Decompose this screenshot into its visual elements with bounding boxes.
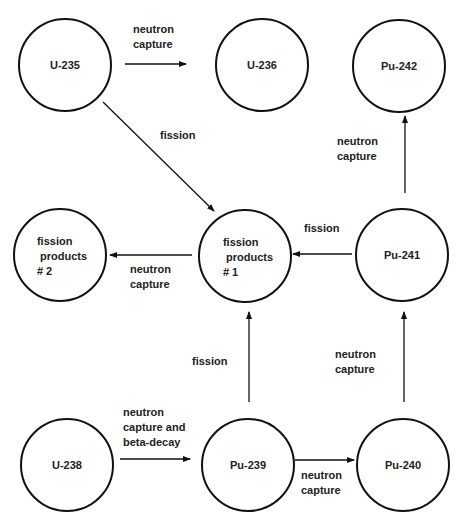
node-pu240-label: Pu-240 bbox=[385, 458, 421, 473]
node-u235-label: U-235 bbox=[50, 58, 80, 73]
edge-fp1-fp2-label: neutron capture bbox=[130, 262, 171, 292]
edge-u235-u236-label: neutron capture bbox=[133, 22, 174, 52]
edge-pu241-fp1-label: fission bbox=[304, 221, 339, 236]
edge-pu239-fp1-label: fission bbox=[192, 354, 227, 369]
edge-pu239-pu240-label: neutron capture bbox=[301, 468, 342, 498]
node-pu241-label: Pu-241 bbox=[384, 248, 420, 263]
node-fp1-label: fission products # 1 bbox=[223, 235, 273, 280]
edge-u238-pu239-label: neutron capture and beta-decay bbox=[123, 405, 185, 450]
node-pu239-label: Pu-239 bbox=[230, 458, 266, 473]
node-u236-label: U-236 bbox=[247, 58, 277, 73]
edge-pu241-pu242-label: neutron capture bbox=[337, 134, 378, 164]
node-pu242-label: Pu-242 bbox=[381, 59, 417, 74]
edge-u235-fp1-arrow bbox=[103, 102, 214, 211]
node-u238-label: U-238 bbox=[52, 458, 82, 473]
node-fp2-label: fission products # 2 bbox=[37, 234, 87, 279]
edge-pu240-pu241-label: neutron capture bbox=[335, 347, 376, 377]
edge-u235-fp1-label: fission bbox=[160, 128, 195, 143]
